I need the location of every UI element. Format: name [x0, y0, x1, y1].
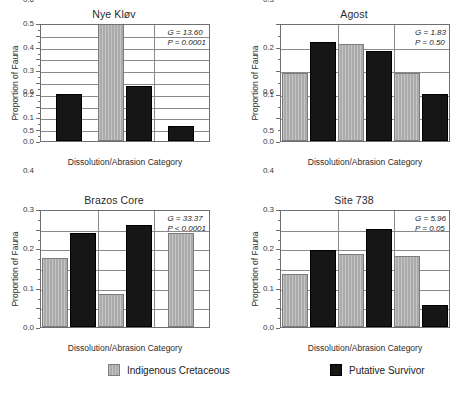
y-minor-tick-mark [38, 136, 41, 137]
y-tick-mark [276, 249, 280, 250]
category-unaffected: Unaffected [97, 211, 153, 327]
p-value: P < 0.0001 [167, 224, 206, 234]
y-tick-mark [36, 308, 40, 309]
category-susceptible: Susceptible [41, 211, 97, 327]
y-minor-tick-mark [38, 240, 41, 241]
g-statistic: G = 5.96 [415, 214, 446, 224]
y-tick-label: 0.6 [6, 0, 34, 4]
legend-label-putative-survivor: Putative Survivor [349, 365, 425, 376]
legend-item-putative-survivor: Putative Survivor [330, 364, 425, 376]
y-tick-label: 0.0 [6, 138, 34, 146]
y-tick-label: 0.3 [246, 0, 274, 4]
y-minor-tick-mark [38, 65, 41, 66]
y-minor-tick-mark [38, 318, 41, 319]
y-tick-label: 0.4 [246, 167, 274, 175]
legend-swatch-putative-survivor [330, 364, 342, 376]
y-tick-label: 0.0 [246, 324, 274, 332]
plot-area-agost: SusceptibleUnaffectedResistant0.00.10.20… [280, 24, 450, 142]
y-tick-mark [276, 118, 280, 119]
y-tick-mark [36, 230, 40, 231]
panel-site-738: Site 738SusceptibleUnaffectedResistant0.… [240, 186, 468, 366]
panel-agost: AgostSusceptibleUnaffectedResistant0.00.… [240, 0, 468, 180]
y-tick-mark [36, 328, 40, 329]
y-tick-mark [276, 95, 280, 96]
bar-site-738-resistant-indigenous-cretaceous [394, 256, 420, 327]
y-tick-mark [36, 118, 40, 119]
y-tick-mark [36, 36, 40, 37]
bar-brazos-core-susceptible-putative-survivor [70, 233, 96, 327]
y-minor-tick-mark [38, 77, 41, 78]
y-minor-tick-mark [278, 240, 281, 241]
bar-site-738-unaffected-indigenous-cretaceous [338, 254, 364, 327]
bar-agost-unaffected-putative-survivor [366, 51, 392, 141]
y-tick-mark [276, 328, 280, 329]
bar-nye-klov-unaffected-putative-survivor [126, 86, 152, 141]
statistics-annotation-agost: G = 1.83P = 0.50 [415, 28, 446, 48]
category-susceptible: Susceptible [281, 211, 337, 327]
g-statistic: G = 1.83 [415, 28, 446, 38]
p-value: P = 0.05 [415, 224, 446, 234]
y-minor-tick-mark [38, 220, 41, 221]
y-tick-mark [276, 48, 280, 49]
y-tick-mark [36, 95, 40, 96]
bar-site-738-susceptible-putative-survivor [310, 250, 336, 327]
bar-agost-resistant-indigenous-cretaceous [394, 73, 420, 141]
y-tick-mark [276, 24, 280, 25]
y-minor-tick-mark [278, 107, 281, 108]
y-minor-tick-mark [278, 279, 281, 280]
bar-nye-klov-resistant-putative-survivor [168, 126, 194, 141]
y-axis-label: Proportion of Fauna [250, 45, 260, 120]
y-tick-mark [276, 230, 280, 231]
category-susceptible: Susceptible [281, 25, 337, 141]
figure-legend: Indigenous Cretaceous Putative Survivor [0, 362, 473, 384]
y-minor-tick-mark [38, 30, 41, 31]
y-tick-label: 0.5 [6, 20, 34, 28]
bar-agost-unaffected-indigenous-cretaceous [338, 44, 364, 141]
bar-nye-klov-unaffected-indigenous-cretaceous [98, 24, 124, 141]
y-minor-tick-mark [38, 124, 41, 125]
y-tick-label: 0.0 [6, 324, 34, 332]
y-minor-tick-mark [38, 113, 41, 114]
y-tick-mark [36, 24, 40, 25]
panel-nye-klov: Nye KløvSusceptibleUnaffectedResistant0.… [0, 0, 228, 180]
y-minor-tick-mark [278, 36, 281, 37]
y-tick-mark [36, 142, 40, 143]
y-tick-mark [36, 130, 40, 131]
x-axis-label: Dissolution/Abrasion Category [280, 157, 450, 167]
bar-nye-klov-susceptible-putative-survivor [56, 94, 82, 141]
y-tick-label: 0.5 [246, 127, 274, 135]
y-tick-label: 0.6 [6, 88, 34, 96]
y-minor-tick-mark [38, 299, 41, 300]
figure-multipanel-bar-charts: Nye KløvSusceptibleUnaffectedResistant0.… [0, 0, 473, 399]
bar-site-738-susceptible-indigenous-cretaceous [282, 274, 308, 327]
y-minor-tick-mark [38, 279, 41, 280]
y-tick-mark [36, 249, 40, 250]
x-axis-label: Dissolution/Abrasion Category [40, 343, 210, 353]
p-value: P = 0.50 [415, 38, 446, 48]
bar-brazos-core-unaffected-putative-survivor [126, 225, 152, 327]
statistics-annotation-brazos-core: G = 33.37P < 0.0001 [167, 214, 206, 234]
category-unaffected: Unaffected [97, 25, 153, 141]
y-tick-mark [276, 308, 280, 309]
legend-item-indigenous-cretaceous: Indigenous Cretaceous [108, 364, 230, 376]
g-statistic: G = 33.37 [167, 214, 206, 224]
y-minor-tick-mark [38, 42, 41, 43]
p-value: P = 0.0001 [167, 38, 206, 48]
y-tick-label: 0.3 [246, 206, 274, 214]
statistics-annotation-nye-klov: G = 13.60P = 0.0001 [167, 28, 206, 48]
y-tick-mark [36, 269, 40, 270]
plot-area-nye-klov: SusceptibleUnaffectedResistant0.00.10.20… [40, 24, 210, 142]
y-minor-tick-mark [278, 83, 281, 84]
y-tick-label: 0.3 [6, 206, 34, 214]
category-unaffected: Unaffected [337, 25, 393, 141]
y-minor-tick-mark [278, 299, 281, 300]
bar-site-738-unaffected-putative-survivor [366, 229, 392, 327]
y-axis-label: Proportion of Fauna [10, 45, 20, 120]
legend-swatch-indigenous-cretaceous [108, 364, 120, 376]
y-minor-tick-mark [278, 59, 281, 60]
plot-area-brazos-core: SusceptibleUnaffectedResistant0.00.10.20… [40, 210, 210, 328]
y-tick-mark [276, 269, 280, 270]
y-tick-mark [36, 107, 40, 108]
bar-agost-susceptible-indigenous-cretaceous [282, 73, 308, 141]
x-axis-label: Dissolution/Abrasion Category [40, 157, 210, 167]
